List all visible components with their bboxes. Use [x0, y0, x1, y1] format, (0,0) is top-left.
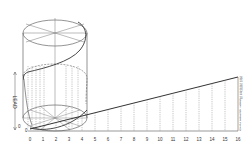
drawing-canvas: 012345678910111213141516 161514131211109…	[0, 0, 246, 158]
base-label: 11	[171, 137, 176, 142]
base-label: 1	[42, 137, 45, 142]
base-label: 5	[94, 137, 97, 142]
base-label: 0	[29, 137, 32, 142]
base-label: 15	[222, 137, 228, 142]
base-label: 4	[81, 137, 84, 142]
base-label: 16	[235, 137, 241, 142]
right-scale-labels: 161514131211109876543210	[240, 76, 243, 132]
helix-diagram: 012345678910111213141516 161514131211109…	[0, 0, 246, 158]
right-scale-label: 0	[240, 128, 242, 132]
base-label: 6	[107, 137, 110, 142]
development-division-lines	[43, 80, 225, 131]
base-label: 10	[157, 137, 163, 142]
base-label: 9	[146, 137, 149, 142]
origin-label-a: 0	[18, 124, 21, 129]
origin-label-b: 0	[25, 128, 28, 133]
base-label: 3	[68, 137, 71, 142]
base-label: 8	[133, 137, 136, 142]
base-label: 2	[55, 137, 58, 142]
base-label: 12	[183, 137, 189, 142]
base-label: 13	[196, 137, 202, 142]
lead-dimension-label: LEAD	[12, 95, 18, 108]
base-label: 14	[209, 137, 215, 142]
base-label: 7	[120, 137, 123, 142]
base-division-labels: 012345678910111213141516	[29, 137, 241, 142]
